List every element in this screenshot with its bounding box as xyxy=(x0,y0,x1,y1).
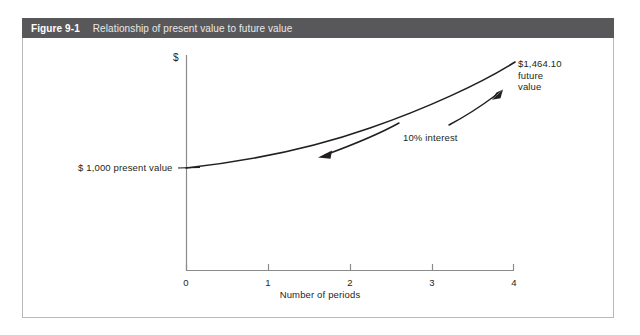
x-axis-title: Number of periods xyxy=(0,289,640,300)
x-tick-label-0: 0 xyxy=(176,277,196,288)
x-tick-label-1: 1 xyxy=(258,277,278,288)
x-tick-label-3: 3 xyxy=(422,277,442,288)
future-value-amount: $1,464.10 xyxy=(518,58,562,70)
future-value-word-value: value xyxy=(518,81,562,93)
figure-header-bar: Figure 9-1 Relationship of present value… xyxy=(22,18,614,38)
figure-title: Relationship of present value to future … xyxy=(93,23,293,34)
interest-rate-label: 10% interest xyxy=(403,132,458,143)
y-axis-unit-label: $ xyxy=(173,52,179,63)
future-value-label: $1,464.10 future value xyxy=(518,58,562,93)
x-tick-label-2: 2 xyxy=(340,277,360,288)
x-tick-label-4: 4 xyxy=(504,277,524,288)
present-value-label: $ 1,000 present value xyxy=(78,162,173,173)
future-value-word-future: future xyxy=(518,70,562,82)
figure-number: Figure 9-1 xyxy=(31,23,80,34)
